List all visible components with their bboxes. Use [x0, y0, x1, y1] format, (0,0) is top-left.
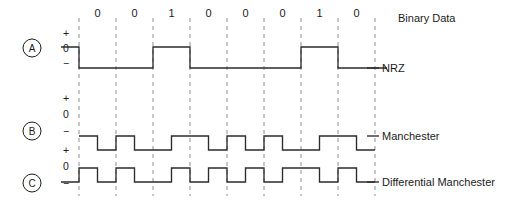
row-marker-c-letter: C	[28, 178, 35, 189]
axis-label-b-plus: +	[63, 92, 69, 104]
bit-label-6: 1	[316, 7, 322, 19]
label-manchester: Manchester	[382, 130, 440, 142]
bit-label-1: 0	[131, 7, 137, 19]
bit-label-4: 0	[242, 7, 248, 19]
waveform-svg: 00100010 +0−+0−+0− ABC Binary DataNRZMan…	[0, 0, 509, 208]
label-nrz: NRZ	[382, 62, 405, 74]
axis-label-a-minus: −	[63, 57, 69, 69]
axis-label-c-minus: −	[63, 177, 69, 189]
axis-labels-group: +0−+0−+0−	[63, 27, 69, 189]
label-differential-manchester: Differential Manchester	[382, 176, 495, 188]
row-marker-a-letter: A	[29, 43, 36, 54]
axis-label-c-zero: 0	[63, 160, 69, 172]
axis-label-b-minus: −	[63, 125, 69, 137]
bit-label-5: 0	[279, 7, 285, 19]
bit-label-3: 0	[205, 7, 211, 19]
bit-label-2: 1	[168, 7, 174, 19]
axis-label-a-zero: 0	[63, 42, 69, 54]
axis-label-b-zero: 0	[63, 108, 69, 120]
encoding-diagram: 00100010 +0−+0−+0− ABC Binary DataNRZMan…	[0, 0, 509, 208]
axis-label-c-plus: +	[63, 144, 69, 156]
bit-label-7: 0	[353, 7, 359, 19]
bit-label-0: 0	[94, 7, 100, 19]
row-marker-b-letter: B	[29, 126, 36, 137]
axis-label-a-plus: +	[63, 27, 69, 39]
label-binary-data: Binary Data	[398, 12, 456, 24]
